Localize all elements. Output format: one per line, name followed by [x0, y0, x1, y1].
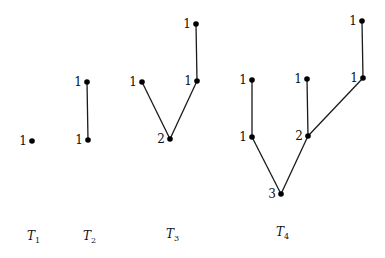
- tree-vertex: [29, 138, 35, 144]
- tree-edge: [362, 21, 363, 78]
- vertex-label: 1: [183, 17, 191, 31]
- tree-edge: [281, 136, 308, 194]
- tree-vertex: [139, 79, 145, 85]
- tree-name-label: T3: [166, 227, 179, 243]
- tree-vertex: [249, 134, 255, 140]
- tree-vertex: [360, 75, 366, 81]
- nodes-layer: 11121113112111: [19, 14, 365, 201]
- tree-vertex: [278, 191, 284, 197]
- tree-labels-layer: T1T2T3T4: [27, 225, 289, 245]
- vertex-label: 1: [349, 14, 357, 28]
- vertex-label: 1: [350, 71, 358, 85]
- vertex-label: 1: [239, 130, 247, 144]
- tree-vertex: [194, 78, 200, 84]
- tree-edge: [196, 24, 197, 81]
- tree-edge: [142, 82, 170, 139]
- tree-vertex: [304, 76, 310, 82]
- vertex-label: 1: [294, 72, 302, 86]
- tree-edge: [87, 82, 88, 140]
- tree-edge: [170, 81, 197, 139]
- vertex-label: 2: [157, 132, 165, 146]
- vertex-label: 1: [129, 75, 137, 89]
- tree-vertex: [359, 18, 365, 24]
- tree-vertex: [193, 21, 199, 27]
- vertex-label: 3: [268, 187, 276, 201]
- tree-diagram: 11121113112111 T1T2T3T4: [0, 0, 385, 258]
- tree-name-label: T2: [83, 229, 96, 245]
- vertex-label: 1: [74, 75, 82, 89]
- vertex-label: 1: [19, 134, 27, 148]
- tree-edge: [308, 78, 363, 136]
- vertex-label: 1: [184, 74, 192, 88]
- edges-layer: [87, 21, 363, 194]
- tree-edge: [307, 79, 308, 136]
- tree-name-label: T1: [27, 229, 40, 245]
- tree-edge: [252, 137, 281, 194]
- tree-vertex: [305, 133, 311, 139]
- vertex-label: 1: [239, 73, 247, 87]
- tree-vertex: [84, 79, 90, 85]
- vertex-label: 1: [75, 133, 83, 147]
- vertex-label: 2: [295, 129, 303, 143]
- tree-vertex: [167, 136, 173, 142]
- tree-vertex: [249, 77, 255, 83]
- tree-name-label: T4: [276, 225, 289, 241]
- tree-vertex: [85, 137, 91, 143]
